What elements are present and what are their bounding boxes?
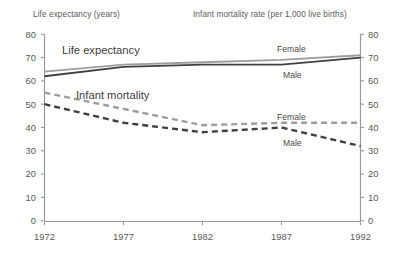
x-tick-label: 1972 <box>25 231 65 242</box>
series-line <box>45 55 361 71</box>
x-tick-label: 1982 <box>183 231 223 242</box>
right-tick-label: 80 <box>368 29 390 40</box>
left-tick-label: 60 <box>14 75 36 86</box>
left-tick-label: 0 <box>14 215 36 226</box>
right-tick-label: 50 <box>368 99 390 110</box>
x-tick-label: 1977 <box>104 231 144 242</box>
left-tick-label: 10 <box>14 192 36 203</box>
annotation-infant-mortality: Infant mortality <box>76 89 149 101</box>
annotation-im-male: Male <box>283 138 302 148</box>
left-tick-label: 50 <box>14 99 36 110</box>
x-tick-label: 1992 <box>341 231 381 242</box>
right-tick-label: 60 <box>368 75 390 86</box>
left-tick-label: 80 <box>14 29 36 40</box>
annotation-le-male: Male <box>283 70 302 80</box>
right-tick-label: 0 <box>368 215 390 226</box>
annotation-im-female: Female <box>277 112 306 122</box>
right-tick-label: 10 <box>368 192 390 203</box>
left-tick-label: 20 <box>14 168 36 179</box>
left-tick-label: 40 <box>14 122 36 133</box>
left-tick-label: 70 <box>14 52 36 63</box>
right-tick-label: 70 <box>368 52 390 63</box>
annotation-le-female: Female <box>277 44 306 54</box>
x-tick-label: 1987 <box>262 231 302 242</box>
right-tick-label: 40 <box>368 122 390 133</box>
right-tick-label: 30 <box>368 145 390 156</box>
annotation-life-expectancy: Life expectancy <box>62 44 140 56</box>
right-tick-label: 20 <box>368 168 390 179</box>
left-tick-label: 30 <box>14 145 36 156</box>
chart-plot-area <box>0 0 405 261</box>
chart-container: Life expectancy (years) Infant mortality… <box>0 0 405 261</box>
